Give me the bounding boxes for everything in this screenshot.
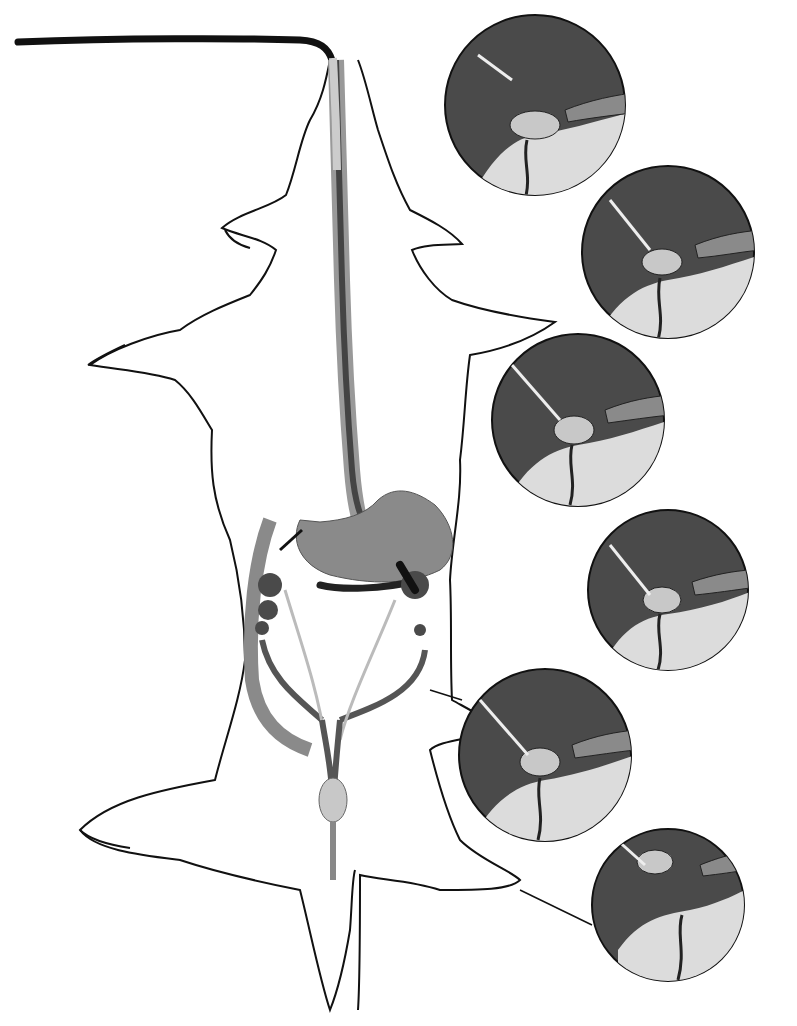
diagram-canvas (0, 0, 797, 1026)
endoscope-cable (18, 39, 332, 60)
inset-step-4 (588, 510, 750, 680)
inset-step-6 (592, 829, 745, 985)
inset-step-2 (582, 166, 760, 360)
inset-step-3 (492, 334, 670, 520)
esophagus (333, 58, 400, 565)
inset-step-5 (459, 669, 635, 850)
stomach (296, 491, 452, 582)
